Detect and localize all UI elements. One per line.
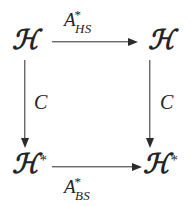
arrow-label-top: A*HS (64, 10, 99, 29)
commutative-diagram: ℋ ℋ ℋ* ℋ* A*HS A*BS C C (0, 0, 193, 206)
star-superscript: * (40, 152, 48, 168)
arrow-label-left: C (34, 92, 47, 112)
operator-symbol: A (64, 9, 76, 30)
script-h-symbol: ℋ (12, 148, 40, 179)
arrow-label-bottom: A*BS (64, 177, 97, 196)
operator-superscript: * (75, 7, 82, 22)
arrow-right-vertical (144, 60, 156, 148)
arrow-bottom-horizontal (52, 161, 142, 173)
arrow-shaft (52, 166, 132, 167)
arrowhead-right-icon (128, 38, 138, 46)
diagram-node-top-left: ℋ (12, 26, 40, 53)
arrowhead-down-icon (21, 138, 29, 148)
diagram-node-top-right: ℋ (148, 26, 176, 53)
diagram-node-bottom-left: ℋ* (12, 150, 47, 177)
operator-symbol: A (64, 176, 76, 197)
script-h-symbol: ℋ (148, 24, 176, 55)
arrow-left-vertical (19, 60, 31, 148)
arrow-shaft (24, 60, 25, 138)
arrowhead-right-icon (132, 163, 142, 171)
star-superscript: * (171, 152, 179, 168)
arrow-top-horizontal (52, 36, 138, 48)
script-h-symbol: ℋ (143, 148, 171, 179)
arrowhead-down-icon (146, 138, 154, 148)
script-h-symbol: ℋ (12, 24, 40, 55)
arrow-shaft (149, 60, 150, 138)
diagram-node-bottom-right: ℋ* (143, 150, 178, 177)
operator-superscript: * (75, 174, 82, 189)
arrow-label-right: C (160, 92, 173, 112)
operator-subscript: HS (75, 21, 92, 36)
operator-subscript: BS (75, 188, 90, 203)
arrow-shaft (52, 41, 128, 42)
